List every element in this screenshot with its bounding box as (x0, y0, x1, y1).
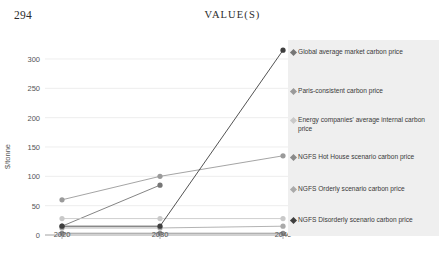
y-axis-tick-label: 150 (10, 143, 40, 152)
x-axis-tick-label: 2030 (152, 230, 169, 239)
legend-item: Energy companies' average internal carbo… (291, 116, 437, 133)
data-point-marker (157, 224, 162, 229)
data-point-marker (59, 224, 64, 229)
legend-item-label: NGFS Hot House scenario carbon price (298, 153, 437, 162)
legend-item-label: Energy companies' average internal carbo… (298, 116, 437, 133)
figure-carbon-price-chart: 050100150200250300 $/tonne 202020302040 … (0, 34, 439, 266)
legend-item-label: NGFS Disorderly scenario carbon price (298, 216, 437, 225)
legend-item-label: Global average market carbon price (298, 48, 437, 57)
legend-item-label: NGFS Orderly scenario carbon price (298, 185, 437, 194)
data-point-marker (157, 174, 162, 179)
y-axis-tick-label: 300 (10, 55, 40, 64)
data-point-marker (59, 197, 64, 202)
legend-item: Paris-consistent carbon price (291, 87, 437, 96)
plot-area: 050100150200250300 $/tonne 202020302040 (0, 34, 300, 266)
data-point-marker (157, 183, 162, 188)
legend-diamond-icon (290, 153, 297, 160)
legend-diamond-icon (290, 87, 297, 94)
chart-svg (45, 34, 295, 266)
legend-diamond-icon (290, 48, 297, 55)
y-axis-tick-label: 50 (10, 201, 40, 210)
running-title: VALUE(S) (0, 9, 439, 20)
chart-canvas (45, 34, 295, 266)
y-axis-tick-label: 0 (10, 231, 40, 240)
legend-item-label: Paris-consistent carbon price (298, 87, 437, 96)
legend-diamond-icon (290, 185, 297, 192)
x-axis-tick-label: 2020 (54, 230, 71, 239)
running-head: 294 VALUE(S) (0, 0, 439, 34)
legend-item: NGFS Orderly scenario carbon price (291, 185, 437, 194)
legend-item: Global average market carbon price (291, 48, 437, 57)
data-point-marker (280, 153, 285, 158)
data-point-marker (280, 216, 285, 221)
chart-legend: Global average market carbon priceParis-… (288, 40, 439, 236)
page: 294 VALUE(S) 050100150200250300 $/tonne … (0, 0, 439, 266)
y-axis-tick-label: 200 (10, 113, 40, 122)
data-point-marker (59, 216, 64, 221)
series-line (62, 50, 283, 226)
series-line (62, 156, 283, 200)
legend-item: NGFS Disorderly scenario carbon price (291, 216, 437, 225)
data-point-marker (157, 216, 162, 221)
data-point-marker (280, 48, 285, 53)
data-point-marker (280, 224, 285, 229)
y-axis-tick-label: 250 (10, 84, 40, 93)
legend-diamond-icon (290, 216, 297, 223)
y-axis-tick-label: 100 (10, 172, 40, 181)
y-axis-label: $/tonne (3, 144, 12, 169)
legend-diamond-icon (290, 116, 297, 123)
legend-item: NGFS Hot House scenario carbon price (291, 153, 437, 162)
y-axis-ticks: 050100150200250300 (10, 34, 40, 266)
